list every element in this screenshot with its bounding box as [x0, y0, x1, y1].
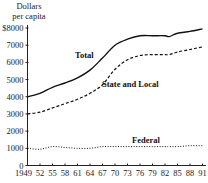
x-tick-label: 61 [73, 168, 82, 178]
x-tick-label: 91 [198, 168, 207, 178]
x-tick-label: 79 [148, 168, 157, 178]
series-group [28, 29, 203, 149]
series-label-federal: Federal [132, 135, 160, 145]
x-tick-label: 73 [123, 168, 132, 178]
y-tick-label: 2000 [7, 126, 24, 136]
x-tick-label: 85 [173, 168, 182, 178]
y-tick-label: 3000 [7, 109, 24, 119]
y-tick-label: 7000 [7, 40, 24, 50]
series-label-state-and-local: State and Local [102, 79, 159, 89]
x-tick-label: 52 [36, 168, 45, 178]
x-tick-label: 82 [161, 168, 170, 178]
x-tick-label: 58 [61, 168, 70, 178]
x-tick-label: 76 [136, 168, 145, 178]
x-tick-label: 55 [48, 168, 57, 178]
x-tick-label: 88 [186, 168, 195, 178]
y-axis-label-line-2: per capita [12, 11, 45, 21]
y-tick-label: 5000 [7, 75, 24, 85]
axes: 01000200030004000500060007000$8000194952… [2, 23, 207, 178]
x-tick-label: 70 [111, 168, 120, 178]
x-tick-label: 1949 [15, 168, 32, 178]
y-tick-label: 6000 [7, 57, 24, 67]
x-tick-label: 64 [86, 168, 95, 178]
y-axis-label-line-1: Dollars [16, 1, 41, 11]
y-tick-label: 4000 [7, 92, 24, 102]
y-tick-label: $8000 [2, 23, 23, 33]
x-tick-label: 67 [98, 168, 107, 178]
y-tick-label: 1000 [7, 143, 24, 153]
series-line-federal [28, 146, 203, 150]
series-label-total: Total [75, 50, 94, 60]
line-chart: Dollars per capita 010002000300040005000… [0, 0, 208, 183]
